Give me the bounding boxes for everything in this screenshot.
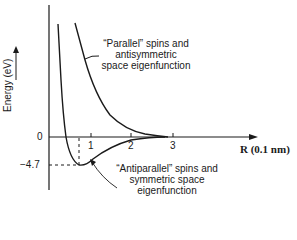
x-axis-label: R (0.1 nm) xyxy=(240,143,290,155)
parallel-pointer xyxy=(85,56,99,59)
x-tick-label-1: 1 xyxy=(88,141,94,151)
y-tick-label-0: 0 xyxy=(37,132,43,142)
antiparallel-annotation: “Antiparallel” spins and symmetric space… xyxy=(108,163,226,196)
parallel-annotation: “Parallel” spins and antisymmetric space… xyxy=(98,38,194,71)
antiparallel-annotation-line-2: symmetric space xyxy=(108,174,226,185)
y-tick-label-min: −4.7 xyxy=(20,160,40,170)
parallel-annotation-line-1: “Parallel” spins and xyxy=(98,38,194,49)
y-axis-label: Energy (eV) xyxy=(2,59,13,112)
y-label-arrow-icon xyxy=(13,46,19,53)
antiparallel-annotation-line-1: “Antiparallel” spins and xyxy=(108,163,226,174)
antiparallel-pointer-arrow-icon xyxy=(90,159,96,166)
parallel-annotation-line-2: antisymmetric xyxy=(98,49,194,60)
x-tick-label-2: 2 xyxy=(128,141,134,151)
x-tick-label-3: 3 xyxy=(170,141,176,151)
x-axis-arrow-icon xyxy=(249,134,258,140)
parallel-annotation-line-3: space eigenfunction xyxy=(98,60,194,71)
antiparallel-annotation-line-3: eigenfunction xyxy=(108,185,226,196)
